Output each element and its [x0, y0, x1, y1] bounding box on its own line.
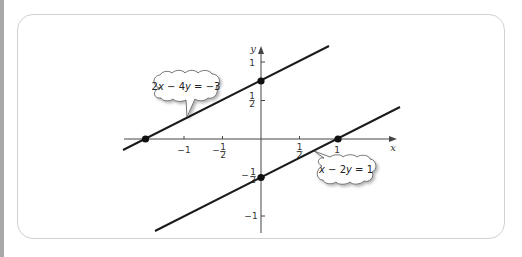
y-tick-label-minus-half: − 1 2: [241, 167, 256, 185]
y-tick-label-1: 1: [249, 58, 255, 68]
point-1-0: [334, 135, 341, 142]
y-tick-label-half: 1 2: [249, 91, 255, 109]
point-0-minus-0.5: [257, 174, 264, 181]
y-axis-label: y: [249, 43, 256, 54]
x-tick-label-minus-1: −1: [177, 145, 190, 155]
svg-text:2: 2: [220, 150, 226, 160]
callout-2x-minus-4y: [154, 70, 219, 117]
svg-text:2: 2: [249, 99, 255, 109]
point-minus-1.5-0: [142, 135, 149, 142]
point-0-0.75: [257, 77, 264, 84]
graph: −1 − 1 2 1 2 1 1 1 2 − 1 2 −1 x y 2x − 4…: [0, 0, 522, 257]
x-tick-label-minus-half: − 1 2: [212, 142, 226, 160]
callout-x-minus-2y-text: x − 2y = 1: [318, 164, 373, 175]
svg-text:−: −: [212, 145, 220, 155]
y-tick-label-minus-1: −1: [244, 211, 257, 221]
svg-text:−: −: [241, 170, 249, 180]
callout-2x-minus-4y-text: 2x − 4y = −3: [152, 81, 221, 92]
y-axis-arrow-icon: [258, 46, 264, 54]
x-tick-label-1: 1: [334, 145, 340, 155]
x-axis-label: x: [390, 142, 396, 153]
line-2x-minus-4y-eq-minus-3: [123, 46, 329, 150]
